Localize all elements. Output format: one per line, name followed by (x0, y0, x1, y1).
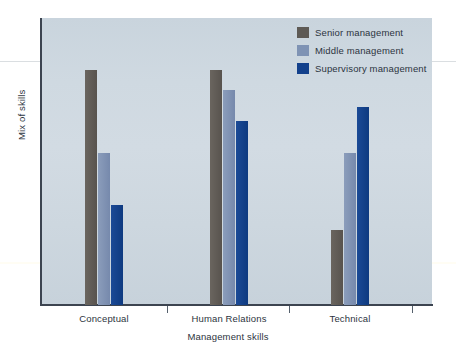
bar-chart-figure: ConceptualHuman RelationsTechnical Senio… (0, 0, 456, 359)
bar-conceptual-middle-management (98, 153, 110, 305)
bar-conceptual-senior-management (85, 70, 97, 305)
category-label-conceptual: Conceptual (79, 313, 129, 324)
x-axis-tick (167, 306, 168, 313)
legend-item-senior: Senior management (297, 26, 427, 39)
bar-human-relations-senior-management (210, 70, 222, 305)
bar-technical-middle-management (344, 153, 356, 305)
legend-label: Senior management (315, 27, 403, 38)
legend-swatch-supervisory-icon (297, 63, 309, 74)
y-axis-line (40, 18, 42, 306)
legend-item-middle: Middle management (297, 44, 427, 57)
x-axis-title: Management skills (187, 331, 268, 342)
legend-swatch-senior-icon (297, 27, 309, 38)
legend-label: Middle management (315, 45, 404, 56)
y-axis-title: Mix of skills (16, 89, 27, 140)
legend-swatch-middle-icon (297, 45, 309, 56)
bar-human-relations-supervisory-management (236, 121, 248, 305)
bar-human-relations-middle-management (223, 90, 235, 305)
bar-conceptual-supervisory-management (111, 205, 123, 305)
legend-item-supervisory: Supervisory management (297, 62, 427, 75)
legend-label: Supervisory management (315, 63, 427, 74)
category-label-technical: Technical (330, 313, 371, 324)
x-axis-tick (289, 306, 290, 313)
bar-technical-senior-management (331, 230, 343, 305)
x-axis-tick (412, 306, 413, 313)
bar-technical-supervisory-management (357, 107, 369, 305)
category-label-human-relations: Human Relations (191, 313, 266, 324)
legend: Senior managementMiddle managementSuperv… (297, 26, 427, 75)
